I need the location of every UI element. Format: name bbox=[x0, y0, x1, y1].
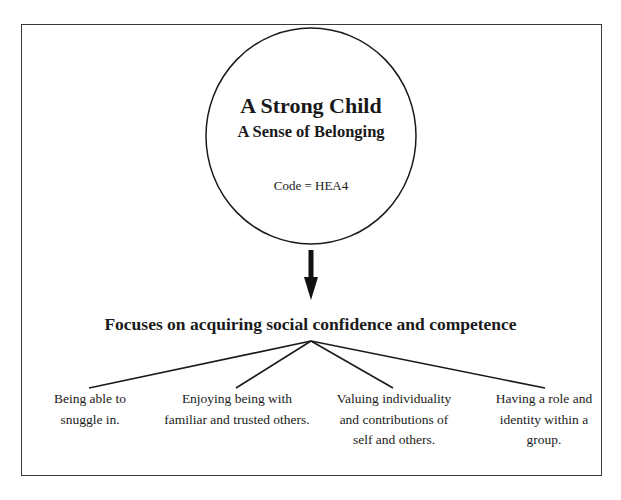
leaf-node-3: Valuing individuality and contributions … bbox=[329, 389, 459, 451]
branch-line-4 bbox=[311, 341, 545, 388]
leaf-text-line: Valuing individuality bbox=[329, 389, 459, 410]
branch-line-3 bbox=[311, 341, 393, 388]
leaf-text-line: snuggle in. bbox=[30, 410, 150, 431]
leaf-text-line: self and others. bbox=[329, 430, 459, 451]
root-title: A Strong Child bbox=[206, 94, 416, 118]
leaf-node-2: Enjoying being with familiar and trusted… bbox=[157, 389, 317, 430]
leaf-text-line: group. bbox=[484, 430, 604, 451]
branch-line-2 bbox=[236, 341, 311, 388]
leaf-text-line: Being able to bbox=[30, 389, 150, 410]
branch-lines bbox=[89, 341, 545, 388]
leaf-text-line: Enjoying being with bbox=[157, 389, 317, 410]
leaf-node-4: Having a role and identity within a grou… bbox=[484, 389, 604, 451]
leaf-text-line: and contributions of bbox=[329, 410, 459, 431]
focus-heading: Focuses on acquiring social confidence a… bbox=[0, 313, 621, 335]
leaf-text-line: Having a role and bbox=[484, 389, 604, 410]
branch-line-1 bbox=[89, 341, 311, 388]
leaf-text-line: familiar and trusted others. bbox=[157, 410, 317, 431]
leaf-node-1: Being able to snuggle in. bbox=[30, 389, 150, 430]
down-arrow-icon bbox=[304, 250, 318, 300]
root-code: Code = HEA4 bbox=[206, 177, 416, 195]
leaf-text-line: identity within a bbox=[484, 410, 604, 431]
root-subtitle: A Sense of Belonging bbox=[206, 122, 416, 142]
